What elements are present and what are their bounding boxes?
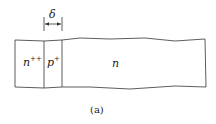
- figure-caption: (a): [90, 104, 104, 115]
- arrow-right-icon: [57, 22, 61, 25]
- arrow-left-icon: [45, 22, 49, 25]
- region-label-pplus: p+: [47, 56, 60, 68]
- region-label-nplusplus: n++: [23, 56, 42, 68]
- delta-label: δ: [49, 9, 56, 20]
- region-label-n: n: [112, 58, 119, 69]
